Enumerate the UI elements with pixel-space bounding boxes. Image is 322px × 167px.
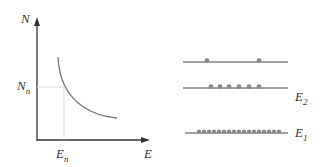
- level-e1-label: E1: [295, 126, 307, 143]
- y-axis-label: N: [21, 12, 30, 25]
- y-marker-label: Nn: [17, 79, 30, 96]
- energy-level-e1: [185, 129, 288, 133]
- axes: [34, 17, 150, 143]
- x-axis-arrow-icon: [141, 137, 150, 143]
- guide-lines: [37, 87, 64, 140]
- n-vs-e-curve: [58, 57, 117, 118]
- y-axis-arrow-icon: [34, 17, 40, 26]
- diagram-canvas: [0, 0, 322, 167]
- energy-level-e2: [183, 84, 288, 89]
- level-e2-label: E2: [295, 90, 307, 107]
- x-marker-label: En: [56, 147, 68, 164]
- energy-level-top: [183, 58, 288, 63]
- x-axis-label: E: [144, 147, 152, 160]
